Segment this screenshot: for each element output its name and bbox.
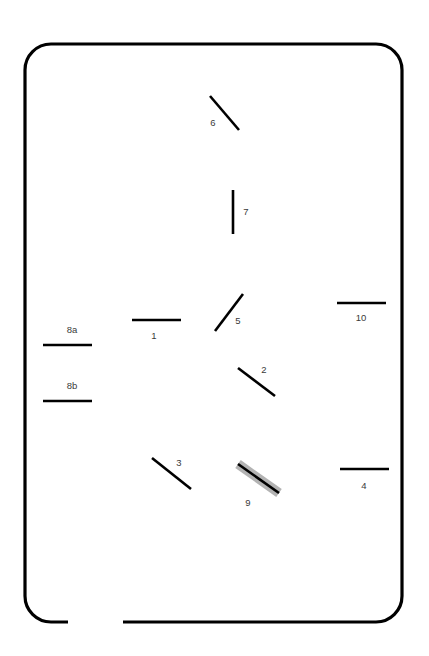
segment-9[interactable]: 9 (238, 464, 279, 508)
rounded-rectangle-border (25, 44, 402, 622)
segment-8a[interactable]: 8a (43, 324, 92, 345)
segment-label-2: 2 (261, 364, 266, 375)
segment-7[interactable]: 7 (233, 190, 249, 234)
segment-label-9: 9 (245, 497, 250, 508)
segment-3-line[interactable] (152, 458, 191, 489)
segment-label-7: 7 (243, 206, 248, 217)
segment-label-8b: 8b (67, 380, 78, 391)
segment-label-3: 3 (176, 457, 181, 468)
diagram-canvas: 12345678a8b910 (0, 0, 429, 656)
segments-group: 12345678a8b910 (43, 96, 389, 508)
segment-8b[interactable]: 8b (43, 380, 92, 401)
segment-5[interactable]: 5 (215, 294, 243, 331)
segment-label-6: 6 (210, 117, 215, 128)
segment-label-1: 1 (151, 330, 156, 341)
segment-label-4: 4 (361, 480, 366, 491)
segment-2[interactable]: 2 (238, 364, 275, 396)
line-segment-figure: 12345678a8b910 (0, 0, 429, 656)
border-path (25, 44, 402, 622)
segment-2-line[interactable] (238, 368, 275, 396)
segment-label-10: 10 (356, 312, 367, 323)
segment-3[interactable]: 3 (152, 457, 191, 489)
segment-label-8a: 8a (67, 324, 78, 335)
segment-label-5: 5 (235, 315, 240, 326)
segment-9-line[interactable] (238, 464, 279, 493)
segment-1[interactable]: 1 (132, 320, 181, 341)
segment-10[interactable]: 10 (337, 303, 386, 323)
segment-4[interactable]: 4 (340, 469, 389, 491)
segment-6[interactable]: 6 (210, 96, 239, 130)
